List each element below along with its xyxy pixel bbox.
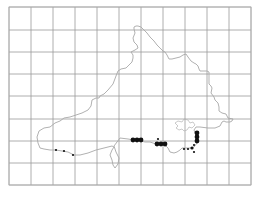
record-dot xyxy=(193,144,195,146)
grid xyxy=(9,7,251,185)
record-dot xyxy=(187,148,189,150)
record-dot xyxy=(55,149,57,151)
record-dot xyxy=(183,148,185,150)
record-dot xyxy=(193,151,195,153)
record-dot xyxy=(195,139,200,144)
record-dot xyxy=(163,142,168,147)
record-dot xyxy=(139,138,144,143)
record-dot xyxy=(63,150,65,152)
distribution-map xyxy=(0,0,259,197)
record-dot xyxy=(190,146,193,149)
county-outline xyxy=(37,26,233,168)
record-dot xyxy=(72,154,74,156)
record-dots xyxy=(55,131,200,156)
record-dot xyxy=(157,138,159,140)
